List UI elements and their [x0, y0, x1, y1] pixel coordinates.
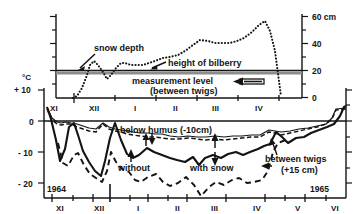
upper-xtick-II: II [173, 104, 178, 113]
lower-xtick-VI: VI [331, 204, 339, 213]
with-snow-label: with snow [189, 163, 234, 173]
below-humus-label: below humus (-10cm) [120, 125, 212, 135]
lower-yaxis-unit-label: °C [22, 73, 31, 82]
lower-xtick-I: I [137, 204, 139, 213]
figure-container: 60 cm 40 20 0 snow depth height of bilbe… [0, 0, 358, 214]
between-twigs-note-label: (between twigs) [150, 86, 218, 96]
upper-xtick-XI: XI [50, 104, 58, 113]
upper-ytick-60: 60 cm [312, 12, 337, 22]
year-start-label: 1964 [47, 184, 66, 194]
upper-ytick-40: 40 [312, 39, 322, 49]
upper-xtick-IV: IV [255, 104, 263, 113]
lower-ytick-plus10: + 10 [14, 85, 31, 95]
height-of-bilberry-label: height of bilberry [168, 58, 242, 68]
lower-ytick-0: 0 [29, 117, 34, 127]
snow-depth-label: snow depth [94, 43, 144, 53]
lower-xtick-III: III [211, 204, 218, 213]
between-twigs-label: between twigs [265, 154, 327, 164]
year-end-label: 1965 [310, 184, 329, 194]
lower-xtick-XII: XII [94, 204, 104, 213]
upper-ytick-0: 0 [312, 93, 317, 103]
lower-xtick-IV: IV [253, 204, 261, 213]
upper-ytick-20: 20 [312, 66, 322, 76]
measurement-level-label: measurement level [132, 76, 213, 86]
climate-chart-svg: 60 cm 40 20 0 snow depth height of bilbe… [0, 0, 358, 214]
lower-xtick-XI: XI [56, 204, 64, 213]
upper-xtick-III: III [212, 104, 219, 113]
lower-ytick-minus10: - 10 [18, 148, 33, 158]
without-label: without [117, 163, 150, 173]
upper-xtick-XII: XII [89, 104, 99, 113]
lower-xtick-II: II [175, 204, 180, 213]
lower-xtick-V: V [295, 204, 301, 213]
between-twigs-depth-label: (+15 cm) [281, 165, 318, 175]
lower-ytick-minus20: - 20 [18, 179, 33, 189]
upper-xtick-I: I [134, 104, 136, 113]
